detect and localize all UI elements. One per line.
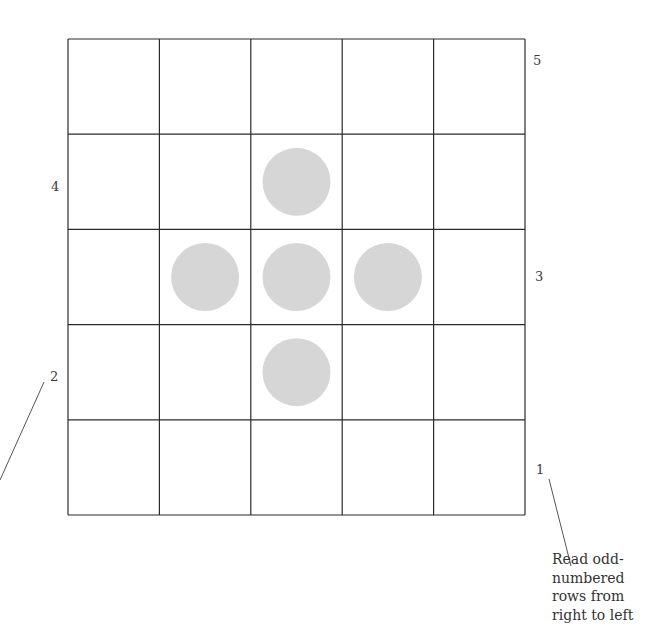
grey-dot [263, 148, 331, 216]
row-label-5: 5 [533, 54, 541, 68]
reading-direction-note: Read odd- numbered rows from right to le… [552, 550, 666, 624]
row-label-4: 4 [51, 180, 59, 194]
row-label-2: 2 [50, 370, 58, 384]
grid-diagram [0, 0, 666, 632]
row-label-3: 3 [535, 270, 543, 284]
leader-line [0, 382, 44, 480]
row-label-1: 1 [536, 463, 544, 477]
grey-dot [263, 338, 331, 406]
grey-dot [354, 243, 422, 311]
leader-lines [0, 382, 571, 566]
dots [171, 148, 422, 406]
grey-dot [171, 243, 239, 311]
grey-dot [263, 243, 331, 311]
